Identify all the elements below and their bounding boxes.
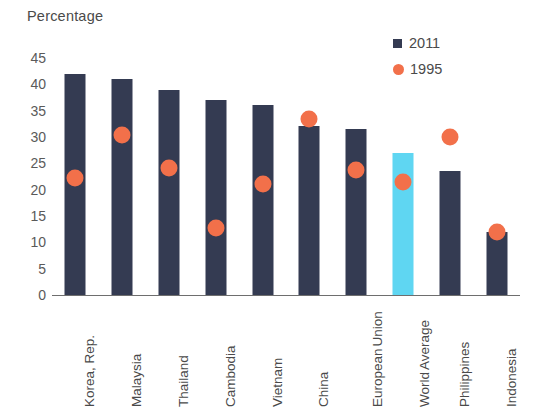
- bar-group[interactable]: [380, 58, 427, 295]
- x-tick-label-slot: Indonesia: [473, 297, 520, 411]
- x-tick-label: Philippines: [457, 342, 473, 407]
- y-tick-label: 45: [14, 51, 46, 65]
- y-tick-label: 0: [14, 288, 46, 302]
- dot-1995[interactable]: [441, 129, 458, 146]
- bar-group[interactable]: [52, 58, 99, 295]
- bar-group[interactable]: [286, 58, 333, 295]
- bar-2011[interactable]: [439, 171, 460, 295]
- y-tick-label: 30: [14, 130, 46, 144]
- x-axis-tick-labels: Korea, Rep.MalaysiaThailandCambodiaVietn…: [52, 297, 520, 411]
- dot-1995[interactable]: [114, 126, 131, 143]
- bar-2011[interactable]: [252, 105, 273, 295]
- x-tick-label-slot: Philippines: [426, 297, 473, 411]
- x-tick-label: China: [316, 372, 332, 407]
- bar-2011[interactable]: [486, 232, 507, 295]
- y-axis-title: Percentage: [27, 8, 103, 24]
- chart-container: Percentage 2011 1995 454035302520151050 …: [0, 0, 533, 411]
- bar-group[interactable]: [192, 58, 239, 295]
- bars-layer: [52, 58, 520, 295]
- y-tick-label: 35: [14, 104, 46, 118]
- bar-group[interactable]: [426, 58, 473, 295]
- x-tick-label: Cambodia: [223, 345, 239, 407]
- y-tick-label: 5: [14, 262, 46, 276]
- bar-2011[interactable]: [112, 79, 133, 295]
- dot-1995[interactable]: [67, 170, 84, 187]
- y-tick-label: 25: [14, 156, 46, 170]
- x-tick-label-slot: Malaysia: [99, 297, 146, 411]
- x-axis-line: [52, 295, 520, 297]
- legend-label-2011: 2011: [409, 36, 440, 51]
- bar-2011[interactable]: [158, 90, 179, 295]
- x-tick-label-slot: China: [286, 297, 333, 411]
- x-tick-label-slot: Thailand: [146, 297, 193, 411]
- y-tick-label: 10: [14, 235, 46, 249]
- dot-1995[interactable]: [348, 162, 365, 179]
- dot-1995[interactable]: [160, 160, 177, 177]
- bar-group[interactable]: [473, 58, 520, 295]
- x-tick-label-slot: EuropeanUnion: [333, 297, 380, 411]
- legend-item-2011: 2011: [393, 30, 513, 56]
- dot-1995[interactable]: [488, 223, 505, 240]
- dot-1995[interactable]: [301, 110, 318, 127]
- dot-1995[interactable]: [394, 173, 411, 190]
- x-tick-label-slot: Vietnam: [239, 297, 286, 411]
- dot-1995[interactable]: [254, 176, 271, 193]
- bar-group[interactable]: [146, 58, 193, 295]
- bar-2011[interactable]: [346, 129, 367, 295]
- bar-2011[interactable]: [205, 100, 226, 295]
- y-tick-label: 40: [14, 77, 46, 91]
- x-tick-label: Korea, Rep.: [82, 335, 98, 407]
- y-axis-tick-labels: 454035302520151050: [10, 58, 46, 295]
- x-tick-label: Malaysia: [129, 354, 145, 407]
- x-tick-label: Vietnam: [270, 358, 286, 407]
- y-tick-label: 20: [14, 183, 46, 197]
- bar-group[interactable]: [99, 58, 146, 295]
- x-tick-label: Indonesia: [504, 348, 520, 407]
- legend-square-icon: [393, 39, 402, 48]
- x-tick-label-slot: Cambodia: [192, 297, 239, 411]
- bar-2011[interactable]: [299, 126, 320, 295]
- plot-area: [52, 58, 520, 295]
- bar-group[interactable]: [239, 58, 286, 295]
- x-tick-label-slot: WorldAverage: [380, 297, 427, 411]
- x-tick-label: Thailand: [176, 355, 192, 407]
- y-tick-label: 15: [14, 209, 46, 223]
- bar-group[interactable]: [333, 58, 380, 295]
- x-tick-label-slot: Korea, Rep.: [52, 297, 99, 411]
- dot-1995[interactable]: [207, 220, 224, 237]
